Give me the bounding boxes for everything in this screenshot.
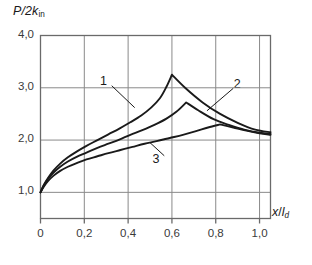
plot-area	[0, 0, 312, 265]
curve-1	[41, 75, 271, 193]
leader-line-2	[207, 88, 233, 110]
leader-line-3	[150, 143, 164, 156]
leader-line-1	[112, 86, 135, 108]
chart-figure: P/2kin x/ld 1,0 2,0 3,0 4,0 0 0,2 0,4 0,…	[0, 0, 312, 265]
